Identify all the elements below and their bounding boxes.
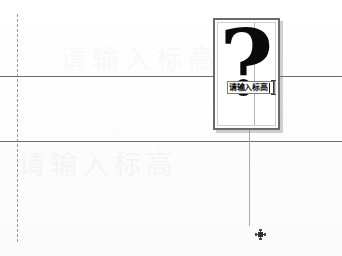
elevation-input-value: 请输入标高 <box>229 82 268 93</box>
drawing-canvas[interactable]: 请输入标高 请输入标高 ? 请输入标高 <box>0 0 342 256</box>
snap-marker-west <box>255 233 257 236</box>
elevation-text-input[interactable]: 请输入标高 <box>227 81 275 94</box>
vertical-construction-line <box>249 130 250 226</box>
snap-marker-center <box>258 232 263 237</box>
snap-marker-north <box>259 229 262 231</box>
text-caret <box>269 83 270 93</box>
glyph-panel[interactable]: ? <box>213 18 280 130</box>
scan-noise-overlay <box>0 0 342 256</box>
watermark-text-upper: 请输入标高 <box>60 38 220 77</box>
node-snap-marker-icon[interactable] <box>255 229 266 240</box>
horizontal-guide-line-1 <box>0 76 342 77</box>
watermark-text-lower: 请输入标高 <box>18 143 178 182</box>
snap-marker-south <box>259 238 262 240</box>
glyph-panel-inner: ? <box>217 22 276 126</box>
question-mark-glyph: ? <box>218 22 275 109</box>
snap-marker-east <box>264 233 266 236</box>
dashed-vertical-guide <box>17 14 18 242</box>
paper-background <box>0 0 342 256</box>
horizontal-guide-line-2 <box>0 141 342 142</box>
